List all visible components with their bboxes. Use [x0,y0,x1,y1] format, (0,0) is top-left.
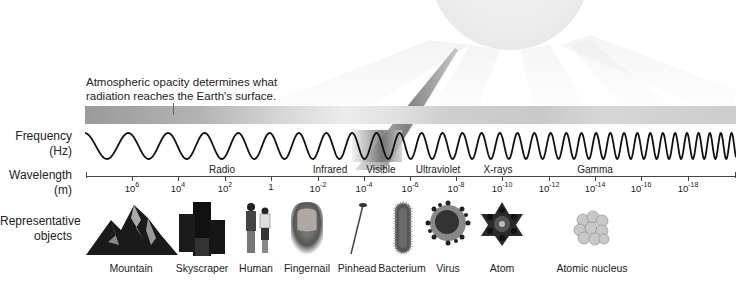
tick-label: 10-2 [310,181,327,194]
annotation-line-1: Atmospheric opacity determines what [86,75,277,89]
object-label-atomic-nucleus: Atomic nucleus [556,262,627,274]
tick-label: 10-14 [585,181,606,194]
tick-label: 10-16 [631,181,652,194]
tick-label: 1 [268,181,273,192]
atomic-nucleus-icon [571,208,613,248]
tick-label: 104 [171,181,185,194]
objects-label-text: Representative [0,214,72,229]
band-label-visible: Visible [366,164,395,175]
skyscraper-icon [179,200,227,258]
atmosphere-annotation: Atmospheric opacity determines what radi… [86,75,277,103]
wavelength-unit: (m) [0,183,72,198]
fingernail-icon [287,200,327,255]
annotation-pointer [173,103,174,115]
tick-label: 10-10 [492,181,513,194]
objects-label-text-2: objects [0,229,72,244]
human-icon [243,200,273,258]
object-label-mountain: Mountain [109,262,152,274]
pinhead-icon [348,200,368,256]
tick-label: 10-8 [448,181,465,194]
band-label-ultraviolet: Ultraviolet [416,164,460,175]
tick-label: 102 [218,181,232,194]
bacterium-icon [390,200,416,256]
atom-icon [479,200,525,246]
objects-label: Representative objects [0,214,72,244]
tick-label: 106 [125,181,139,194]
object-label-virus: Virus [436,262,460,274]
tick-label: 10-12 [539,181,560,194]
tick-label: 10-18 [678,181,699,194]
object-label-bacterium: Bacterium [378,262,425,274]
object-label-atom: Atom [490,262,515,274]
mountain-icon [86,200,178,258]
axis-start-tick [86,172,87,178]
wavelength-label-text: Wavelength [0,168,72,183]
band-label-gamma: Gamma [577,164,613,175]
annotation-line-2: radiation reaches the Earth's surface. [86,89,277,103]
virus-icon [425,200,471,246]
tick-label: 10-6 [402,181,419,194]
tick-label: 10-4 [356,181,373,194]
object-label-skyscraper: Skyscraper [176,262,229,274]
band-label-radio: Radio [209,164,235,175]
atmospheric-opacity-bar [85,106,736,124]
object-label-pinhead: Pinhead [338,262,377,274]
band-label-infrared: Infrared [313,164,347,175]
wavelength-label: Wavelength (m) [0,168,72,198]
object-label-fingernail: Fingernail [284,262,330,274]
wavelength-axis [86,176,736,177]
object-label-human: Human [239,262,273,274]
band-label-x-rays: X-rays [484,164,513,175]
